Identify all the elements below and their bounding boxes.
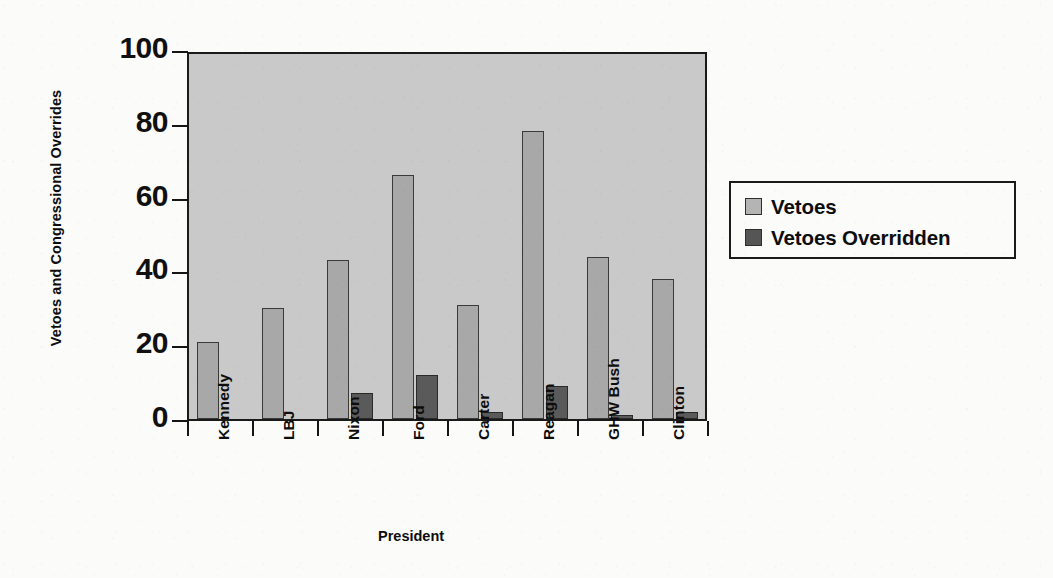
x-axis-tick xyxy=(447,421,449,436)
x-axis-label-ford: Ford xyxy=(410,290,428,440)
plot-area xyxy=(187,52,707,421)
y-axis-tick-label: 0 xyxy=(88,400,168,434)
x-axis-tick xyxy=(317,421,319,436)
x-axis-tick xyxy=(512,421,514,436)
x-axis-label-lbj: LBJ xyxy=(280,290,298,440)
x-axis-title: President xyxy=(378,528,444,544)
legend-item[interactable]: Vetoes Overridden xyxy=(745,222,1014,253)
bars-container xyxy=(189,54,705,419)
light-gray-swatch-icon xyxy=(745,198,762,215)
y-axis-tick xyxy=(172,420,188,422)
y-axis-tick xyxy=(172,125,188,127)
y-axis-tick-label: 60 xyxy=(88,179,168,213)
chart-legend: VetoesVetoes Overridden xyxy=(729,181,1016,259)
y-axis-tick xyxy=(172,272,188,274)
legend-item[interactable]: Vetoes xyxy=(745,191,1014,222)
y-axis-title: Vetoes and Congressional Overrides xyxy=(48,68,64,368)
x-axis-label-nixon: Nixon xyxy=(345,290,363,440)
x-axis-label-ghw-bush: GHW Bush xyxy=(605,290,623,440)
legend-item-label: Vetoes xyxy=(771,195,837,219)
x-axis-tick xyxy=(252,421,254,436)
x-axis-tick xyxy=(577,421,579,436)
x-axis-tick xyxy=(382,421,384,436)
x-axis-tick xyxy=(187,421,189,436)
y-axis-tick xyxy=(172,51,188,53)
x-axis-tick xyxy=(707,421,709,436)
y-axis-tick xyxy=(172,199,188,201)
chart-page: Vetoes and Congressional Overrides Presi… xyxy=(0,0,1053,578)
y-axis-tick xyxy=(172,346,188,348)
y-axis-tick-label: 100 xyxy=(88,31,168,65)
y-axis-tick-label: 80 xyxy=(88,105,168,139)
x-axis-label-clinton: Clinton xyxy=(670,290,688,440)
x-axis-tick xyxy=(642,421,644,436)
x-axis-label-carter: Carter xyxy=(475,290,493,440)
x-axis-label-reagan: Reagan xyxy=(540,290,558,440)
y-axis-tick-label: 20 xyxy=(88,326,168,360)
y-axis-tick-label: 40 xyxy=(88,252,168,286)
legend-item-label: Vetoes Overridden xyxy=(771,226,950,250)
dark-gray-swatch-icon xyxy=(745,229,762,246)
x-axis-label-kennedy: Kennedy xyxy=(215,290,233,440)
